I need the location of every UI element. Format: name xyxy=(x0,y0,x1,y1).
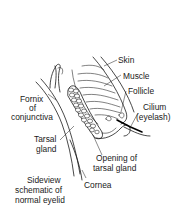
eyelid-diagram: Skin Muscle Follicle Cilium (eyelash) Fo… xyxy=(0,0,179,205)
label-muscle: Muscle xyxy=(123,71,150,81)
lid-margin xyxy=(96,125,130,139)
label-opening-1: Opening of xyxy=(96,153,138,163)
caption-line-3: normal eyelid xyxy=(15,195,65,205)
follicles xyxy=(106,113,124,121)
label-follicle: Follicle xyxy=(128,86,154,96)
caption-line-2: schematic of xyxy=(15,185,63,195)
label-cornea: Cornea xyxy=(84,180,112,190)
eyelid-schematic-svg: Skin Muscle Follicle Cilium (eyelash) Fo… xyxy=(0,0,179,205)
label-eyelash: (eyelash) xyxy=(136,112,171,122)
label-opening-2: tarsal gland xyxy=(93,163,137,173)
label-tarsal-1: Tarsal xyxy=(34,134,56,144)
label-cilium: Cilium xyxy=(143,102,166,112)
label-fornix-3: conjunctiva xyxy=(11,112,53,122)
eyelash xyxy=(117,120,150,136)
label-skin: Skin xyxy=(118,55,135,65)
caption-line-1: Sideview xyxy=(27,175,61,185)
label-tarsal-2: gland xyxy=(36,144,57,154)
